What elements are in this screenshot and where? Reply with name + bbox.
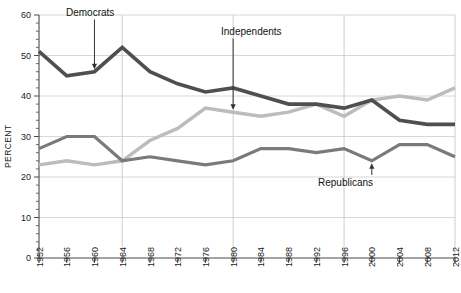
x-tick-label-2008: 2008 (423, 247, 433, 267)
annotation-label-republicans: Republicans (318, 177, 373, 188)
x-tick-label-2000: 2000 (367, 247, 377, 267)
x-tick-label-1988: 1988 (284, 247, 294, 267)
x-tick-label-1952: 1952 (35, 247, 45, 267)
x-tick-label-1964: 1964 (118, 247, 128, 267)
party-identification-line-chart: 0102030405060 19521956196019641968197219… (0, 0, 461, 293)
x-tick-label-1976: 1976 (201, 247, 211, 267)
x-tick-label-1984: 1984 (256, 247, 266, 267)
annotation-label-independents: Independents (221, 26, 282, 37)
y-tick-label-10: 10 (21, 213, 31, 223)
y-tick-label-0: 0 (26, 253, 31, 263)
x-tick-label-1972: 1972 (173, 247, 183, 267)
y-axis-title: PERCENT (3, 125, 13, 168)
x-tick-label-1956: 1956 (62, 247, 72, 267)
x-tick-label-2012: 2012 (451, 247, 461, 267)
x-tick-label-1980: 1980 (229, 247, 239, 267)
x-tick-label-2004: 2004 (395, 247, 405, 267)
x-tick-label-1968: 1968 (146, 247, 156, 267)
annotation-label-democrats: Democrats (66, 7, 114, 18)
y-tick-label-30: 30 (21, 132, 31, 142)
x-tick-label-1960: 1960 (90, 247, 100, 267)
x-tick-label-1992: 1992 (312, 247, 322, 267)
y-tick-label-60: 60 (21, 10, 31, 20)
y-tick-label-20: 20 (21, 172, 31, 182)
y-tick-label-40: 40 (21, 91, 31, 101)
y-tick-label-50: 50 (21, 51, 31, 61)
chart-container: 0102030405060 19521956196019641968197219… (0, 0, 461, 293)
x-tick-label-1996: 1996 (340, 247, 350, 267)
